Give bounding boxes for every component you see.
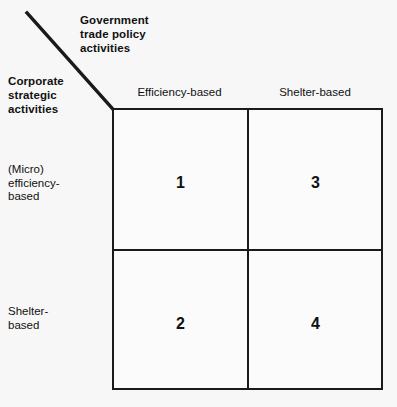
- column-header-shelter-based: Shelter-based: [247, 85, 383, 99]
- row-header-shelter-based: Shelter- based: [8, 305, 108, 332]
- matrix-cell: 4: [249, 251, 382, 390]
- row-header-micro-efficiency-based: (Micro) efficiency- based: [8, 163, 108, 204]
- cell-number: 3: [249, 174, 382, 192]
- column-header-efficiency-based: Efficiency-based: [112, 85, 247, 99]
- matrix-cell: 3: [249, 110, 382, 249]
- quadrant-matrix-figure: Government trade policy activities Corpo…: [0, 0, 397, 407]
- matrix-cell: 1: [114, 110, 247, 249]
- cell-number: 4: [249, 315, 382, 333]
- row-axis-title: Corporate strategic activities: [8, 74, 64, 116]
- matrix-grid: 1 3 2 4: [112, 108, 383, 390]
- cell-number: 2: [114, 315, 247, 333]
- matrix-cell: 2: [114, 251, 247, 390]
- cell-number: 1: [114, 174, 247, 192]
- column-axis-title: Government trade policy activities: [80, 13, 149, 55]
